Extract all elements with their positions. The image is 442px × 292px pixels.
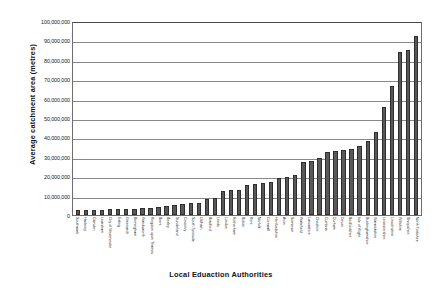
- x-tick-slot: Greenwich: [123, 217, 131, 269]
- x-axis-tick-label: South Tyneside: [191, 217, 195, 242]
- x-axis-tick-label: Bolton: [241, 217, 245, 227]
- x-axis-tick-label: Bradford: [208, 217, 212, 231]
- x-axis-tick-label: Kingston upon Thames: [150, 217, 154, 254]
- bar-slot: [283, 23, 291, 215]
- x-tick-slot: Warwickshire: [371, 217, 379, 269]
- x-tick-slot: Shropshire: [404, 217, 412, 269]
- x-axis-tick-label: Bexley: [166, 217, 170, 228]
- x-axis-tick-label: Leeds: [216, 217, 220, 227]
- bar: [213, 198, 217, 215]
- x-tick-slot: Camden: [90, 217, 98, 269]
- bar: [414, 36, 418, 215]
- bar-slot: [315, 23, 323, 215]
- x-tick-slot: Buckinghamshire: [363, 217, 371, 269]
- bar: [180, 204, 184, 215]
- bar: [156, 207, 160, 215]
- x-tick-slot: Bedfordshire: [346, 217, 354, 269]
- x-axis-tick-label: Southwark: [75, 217, 79, 234]
- bar-slot: [307, 23, 315, 215]
- x-axis-title: Local Eduaction Authorities: [0, 270, 442, 279]
- bar: [253, 184, 257, 215]
- bar-slot: [388, 23, 396, 215]
- x-tick-slot: Durham: [330, 217, 338, 269]
- x-tick-slot: Kingston upon Thames: [148, 217, 156, 269]
- bar-slot: [203, 23, 211, 215]
- x-axis-tick-label: Isle of Wight: [357, 217, 361, 237]
- bar-series: [73, 23, 421, 215]
- bar: [189, 203, 193, 215]
- bar-slot: [299, 23, 307, 215]
- bar-slot: [243, 23, 251, 215]
- bar-slot: [380, 23, 388, 215]
- x-axis-tick-label: Avon: [282, 217, 286, 225]
- bar-slot: [154, 23, 162, 215]
- x-axis-tick-label: Hackney: [83, 217, 87, 231]
- y-axis-tick-label: 100,000,000: [12, 19, 70, 25]
- bar: [309, 161, 313, 215]
- bar: [132, 209, 136, 215]
- x-tick-slot: London: [222, 217, 230, 269]
- bar-slot: [372, 23, 380, 215]
- y-axis-tick-label: 10,000,000: [12, 194, 70, 200]
- x-axis-tick-label: Cheshire: [315, 217, 319, 231]
- x-axis-tick-label: Lincolnshire: [390, 217, 394, 236]
- bar: [100, 210, 104, 215]
- x-axis-tick-label: Cumbria: [324, 217, 328, 231]
- bar: [221, 191, 225, 215]
- bar-slot: [323, 23, 331, 215]
- x-axis-tick-label: Sunderland: [175, 217, 179, 235]
- bar: [325, 152, 329, 215]
- y-axis-tick-label: 90,000,000: [12, 38, 70, 44]
- bar-slot: [187, 23, 195, 215]
- bar: [205, 199, 209, 215]
- plot-area: [72, 22, 422, 216]
- x-tick-slot: Cornwall: [263, 217, 271, 269]
- y-axis-tick-label: 50,000,000: [12, 116, 70, 122]
- bar-slot: [396, 23, 404, 215]
- x-axis-tick-label: Brent: [158, 217, 162, 226]
- bar-slot: [219, 23, 227, 215]
- y-axis-tick-label: 60,000,000: [12, 97, 70, 103]
- x-tick-slot: Hackney: [81, 217, 89, 269]
- bar-slot: [404, 23, 412, 215]
- x-tick-slot: Isle of Wight: [355, 217, 363, 269]
- bar-slot: [227, 23, 235, 215]
- bar: [116, 209, 120, 215]
- bar-slot: [98, 23, 106, 215]
- y-axis-tick-label: 80,000,000: [12, 58, 70, 64]
- x-axis-tick-label: Shropshire: [406, 217, 410, 234]
- bar-slot: [332, 23, 340, 215]
- x-tick-slot: Wiltshire: [396, 217, 404, 269]
- bar-slot: [90, 23, 98, 215]
- bar-slot: [259, 23, 267, 215]
- x-tick-slot: Oldham: [197, 217, 205, 269]
- bar: [398, 52, 402, 215]
- x-tick-slot: Ealing: [114, 217, 122, 269]
- bar: [285, 177, 289, 215]
- bar: [382, 107, 386, 215]
- x-tick-slot: Somerset: [288, 217, 296, 269]
- x-tick-slot: Southwark: [73, 217, 81, 269]
- x-axis-tick-label: Rotherham: [232, 217, 236, 235]
- bar: [366, 141, 370, 215]
- y-axis-tick-label: 70,000,000: [12, 77, 70, 83]
- bar: [269, 182, 273, 215]
- x-tick-slot: Norfolk: [255, 217, 263, 269]
- x-axis-tick-label: Birmingham: [133, 217, 137, 236]
- x-tick-slot: Birmingham: [131, 217, 139, 269]
- y-axis-tick-label: 30,000,000: [12, 155, 70, 161]
- x-tick-slot: Cheshire: [313, 217, 321, 269]
- bar-slot: [412, 23, 420, 215]
- bar-slot: [348, 23, 356, 215]
- x-tick-slot: Lancashire: [305, 217, 313, 269]
- bar-slot: [122, 23, 130, 215]
- bar-slot: [163, 23, 171, 215]
- bar: [108, 209, 112, 215]
- bar: [237, 190, 241, 215]
- x-tick-slot: Leicestershire: [379, 217, 387, 269]
- bar: [277, 178, 281, 215]
- x-tick-slot: Bexley: [164, 217, 172, 269]
- x-tick-slot: Coventry: [181, 217, 189, 269]
- x-axis-tick-label: North Yorkshire: [415, 217, 419, 242]
- bar-slot: [179, 23, 187, 215]
